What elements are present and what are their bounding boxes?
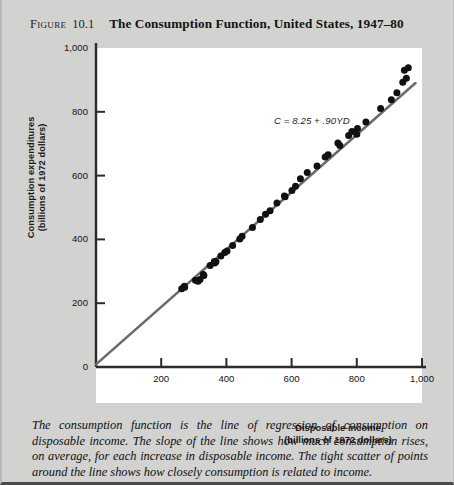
- scatter-point: [257, 216, 264, 223]
- scatter-point: [393, 89, 400, 96]
- scatter-point: [200, 271, 207, 278]
- scatter-point: [267, 207, 274, 214]
- figure-number: 10.1: [72, 17, 94, 31]
- y-axis-tick-label: 600: [42, 170, 88, 181]
- scatter-point: [403, 75, 410, 82]
- y-axis-tick-label: 1,000: [42, 42, 88, 53]
- x-axis-tick-label: 400: [201, 373, 251, 384]
- scatter-point: [377, 105, 384, 112]
- scatter-point: [304, 169, 311, 176]
- figure-container: Figure 10.1 The Consumption Function, Un…: [0, 0, 454, 485]
- scatter-point: [388, 96, 395, 103]
- x-axis-tick-label: 600: [267, 373, 317, 384]
- x-axis-tick-label: 800: [332, 373, 382, 384]
- scatter-point: [325, 151, 332, 158]
- figure-caption: The consumption function is the line of …: [32, 418, 428, 480]
- scatter-point: [239, 233, 246, 240]
- regression-line: [96, 83, 415, 364]
- x-axis-tick-label: 1,000: [397, 373, 447, 384]
- scatter-point: [292, 183, 299, 190]
- scatter-point: [229, 242, 236, 249]
- scatter-point: [273, 200, 280, 207]
- scatter-point: [224, 247, 231, 254]
- y-axis-tick-label: 0: [42, 361, 88, 372]
- scatter-chart-svg: [2, 36, 454, 411]
- scatter-point: [334, 140, 341, 147]
- scatter-point: [211, 258, 218, 265]
- scatter-point: [362, 119, 369, 126]
- scatter-point: [354, 125, 361, 132]
- chart-plot-wrapper: Consumption expenditures (billions of 19…: [2, 36, 454, 411]
- scatter-point: [297, 175, 304, 182]
- x-axis-tick-label: 200: [136, 373, 186, 384]
- y-axis-tick-label: 200: [42, 297, 88, 308]
- y-axis-tick-label: 400: [42, 233, 88, 244]
- scatter-point: [314, 163, 321, 170]
- chart-axes: [96, 43, 426, 367]
- scatter-point: [181, 283, 188, 290]
- figure-title: The Consumption Function, United States,…: [109, 16, 404, 31]
- scatter-point: [281, 193, 288, 200]
- y-axis-tick-label: 800: [42, 106, 88, 117]
- figure-label: Figure: [30, 17, 66, 31]
- scatter-point: [249, 224, 256, 231]
- regression-line-segment: [96, 83, 415, 364]
- scatter-points: [178, 64, 412, 292]
- figure-header: Figure 10.1 The Consumption Function, Un…: [30, 14, 443, 36]
- scatter-point: [405, 64, 412, 71]
